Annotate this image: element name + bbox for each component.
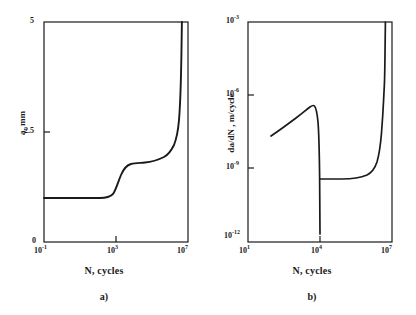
panel-caption-a: a) xyxy=(0,291,208,302)
figure-container: 5 2.5 0 10-1 103 107 a, mm N, cycles a) xyxy=(0,0,416,315)
plot-frame-a xyxy=(44,22,188,242)
y-tick-label-a-0: 5 xyxy=(30,16,34,25)
x-axis-title-b: N, cycles xyxy=(208,265,416,276)
y-tick-label-b-0: 10-3 xyxy=(226,16,239,25)
x-tick-label-b-0: 101 xyxy=(239,246,250,255)
panel-b: 10-3 10-6 10-9 10-12 101 104 107 da/dN ,… xyxy=(208,0,416,315)
x-tick-label-b-2: 107 xyxy=(381,246,392,255)
panel-caption-b: b) xyxy=(208,291,416,302)
x-tick-label-b-1: 104 xyxy=(311,246,322,255)
y-axis-title-a: a, mm xyxy=(17,95,27,151)
x-tick-label-a-1: 103 xyxy=(107,246,118,255)
y-tick-label-b-3: 10-12 xyxy=(224,231,240,240)
y-tick-label-a-2: 0 xyxy=(32,236,36,245)
x-axis-title-a: N, cycles xyxy=(0,265,208,276)
x-tick-label-a-2: 107 xyxy=(177,246,188,255)
y-axis-title-b: da/dN , m/cycle xyxy=(226,78,236,168)
x-tick-label-a-0: 10-1 xyxy=(34,246,47,255)
panel-a: 5 2.5 0 10-1 103 107 a, mm N, cycles a) xyxy=(0,0,208,315)
